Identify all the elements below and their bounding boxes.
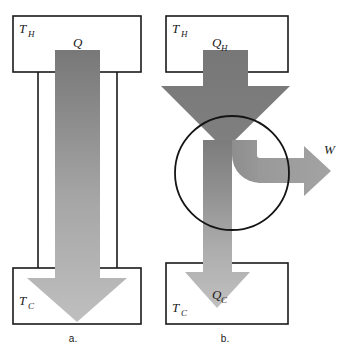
thermodynamics-figure: T H T C Q a. <box>0 0 345 350</box>
panel-a-heat-arrow <box>27 50 127 322</box>
panel-b-hot-label: T <box>172 21 180 36</box>
panel-a-cold-label: T <box>19 293 27 308</box>
panel-a-hot-label-subscript: H <box>27 29 35 39</box>
panel-a-heat-label: Q <box>73 35 83 50</box>
panel-b-heat-input-label-subscript: H <box>220 43 228 53</box>
panel-b: T H T C Q H W Q C b. <box>161 16 336 344</box>
panel-b-work-label: W <box>324 142 336 157</box>
panel-b-cold-label-subscript: C <box>181 308 188 318</box>
panel-b-hot-label-subscript: H <box>180 29 188 39</box>
panel-b-heat-rejected-label-subscript: C <box>221 295 228 305</box>
panel-b-cold-label: T <box>172 300 180 315</box>
panel-a-caption: a. <box>69 333 77 344</box>
panel-b-work-arrow <box>258 146 331 196</box>
panel-b-caption: b. <box>221 333 229 344</box>
panel-a: T H T C Q a. <box>13 16 141 344</box>
panel-a-cold-label-subscript: C <box>28 301 35 311</box>
panel-a-hot-label: T <box>19 21 27 36</box>
